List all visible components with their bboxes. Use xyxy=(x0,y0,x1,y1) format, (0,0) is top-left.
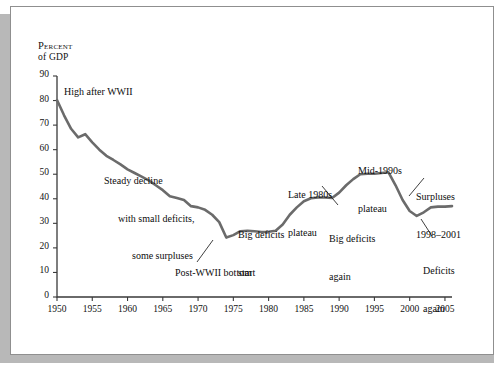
annotation-deficits-again: Deficits again xyxy=(423,240,455,340)
x-tick-2000: 2000 xyxy=(393,304,427,314)
annotation-mid-1990s-plateau: Mid-1990s plateau xyxy=(358,140,402,240)
y-tick-20: 20 xyxy=(27,241,49,251)
annotation-deficits-again-line2: again xyxy=(423,303,455,316)
y-tick-40: 40 xyxy=(27,192,49,202)
x-tick-1950: 1950 xyxy=(40,304,74,314)
x-tick-1955: 1955 xyxy=(75,304,109,314)
y-tick-70: 70 xyxy=(27,118,49,128)
annotation-deficits-again-line1: Deficits xyxy=(423,265,455,278)
annotation-late-1980s-plateau: Late 1980s plateau xyxy=(288,164,332,264)
y-tick-90: 90 xyxy=(27,69,49,79)
annotation-big-deficits-start: Big deficits start xyxy=(238,204,284,304)
annotation-steady-decline-line2: with small deficits, xyxy=(104,213,194,226)
annotation-big-deficits-start-line1: Big deficits xyxy=(238,229,284,242)
x-tick-1970: 1970 xyxy=(181,304,215,314)
annotation-surpluses-line1: Surpluses xyxy=(416,191,461,204)
y-tick-30: 30 xyxy=(27,216,49,226)
x-tick-1985: 1985 xyxy=(287,304,321,314)
figure-page: Percent of GDP 0102030405060708090 19501… xyxy=(0,0,502,367)
x-tick-1960: 1960 xyxy=(111,304,145,314)
x-tick-1980: 1980 xyxy=(252,304,286,314)
x-tick-1975: 1975 xyxy=(216,304,250,314)
annotation-mid-1990s-line2: plateau xyxy=(358,203,402,216)
annotation-late-1980s-line1: Late 1980s xyxy=(288,189,332,202)
annotation-big-deficits-again-line2: again xyxy=(329,271,375,284)
annotation-steady-decline-line1: Steady decline xyxy=(104,175,194,188)
x-tick-1965: 1965 xyxy=(146,304,180,314)
y-axis-title-line1: Percent xyxy=(38,40,72,51)
y-axis-title-line2: of GDP xyxy=(38,52,69,62)
annotation-late-1980s-line2: plateau xyxy=(288,227,332,240)
annotation-big-deficits-start-line2: start xyxy=(238,267,284,280)
y-tick-60: 60 xyxy=(27,143,49,153)
annotation-high-after-wwii: High after WWII xyxy=(64,86,133,99)
y-tick-0: 0 xyxy=(27,290,49,300)
y-tick-80: 80 xyxy=(27,94,49,104)
y-tick-50: 50 xyxy=(27,167,49,177)
annotation-mid-1990s-line1: Mid-1990s xyxy=(358,165,402,178)
annotation-steady-decline-line3: some surpluses xyxy=(104,250,194,263)
y-tick-10: 10 xyxy=(27,265,49,275)
